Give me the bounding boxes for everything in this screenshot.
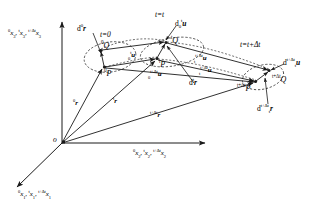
vector-label-rt: tr xyxy=(113,97,117,105)
vector-label-u0dt: 0t+Δtu xyxy=(148,70,161,80)
vector-drt xyxy=(157,44,165,58)
point-label-Qdt: t+ΔtQ xyxy=(272,74,286,84)
vector-label-drdt: dt+Δttr xyxy=(257,104,273,115)
vector-dr0 xyxy=(101,52,104,66)
kinematics-diagram: t=0 t=t t=t+Δt 0x3, tx3, t+Δtx3 0x2, tx2… xyxy=(0,0,322,204)
vector-label-dr0: d0r xyxy=(77,24,86,32)
vector-label-drt: dtr xyxy=(189,78,197,86)
axis-label-x3: 0x3, tx3, t+Δtx3 xyxy=(8,29,41,39)
vector-label-du0t: d0tu xyxy=(175,19,186,30)
coordinate-axes xyxy=(17,22,205,187)
point-label-Qt: tQ xyxy=(171,35,178,45)
vector-label-utdt-upper: tt+Δtu xyxy=(194,54,206,64)
point-label-Q0: 0Q xyxy=(101,40,109,50)
point-label-Pdt: t+ΔtP xyxy=(237,83,250,93)
point-marker-Qdt xyxy=(267,69,270,72)
point-marker-Pdt xyxy=(254,80,257,83)
vector-u-0-to-t-Q xyxy=(102,42,164,50)
config-time-label-tdt: t=t+Δt xyxy=(240,41,260,49)
vector-label-r0: 0r xyxy=(73,99,78,107)
vector-label-dudt: dt+Δttu xyxy=(283,58,300,69)
axis-x1 xyxy=(17,143,62,187)
vector-label-utdt-lower: tt+Δtu xyxy=(199,66,211,76)
label-leader-lines xyxy=(93,26,284,104)
point-label-Pt: tP xyxy=(159,59,165,69)
leader-drdt xyxy=(265,78,268,104)
vector-drdt xyxy=(256,72,268,81)
point-marker-Qt xyxy=(164,41,167,44)
vector-label-rdt: t+Δtr xyxy=(150,111,160,119)
axis-label-x1: 0x1, tx1, t+Δtx1 xyxy=(18,190,51,200)
q-path-t0-to-tt xyxy=(101,39,166,49)
point-label-P0: 0P xyxy=(104,68,111,78)
vector-label-u0t: 0tu xyxy=(128,51,135,61)
vector-u-0-to-tdt-P xyxy=(106,68,254,82)
diagram-canvas xyxy=(0,0,322,204)
config-time-label-t0: t=0 xyxy=(100,31,111,39)
origin-label: o xyxy=(53,136,57,144)
config-time-label-tt: t=t xyxy=(155,11,164,19)
axis-label-x2: 0x2, tx2, t+Δtx2 xyxy=(133,149,166,159)
